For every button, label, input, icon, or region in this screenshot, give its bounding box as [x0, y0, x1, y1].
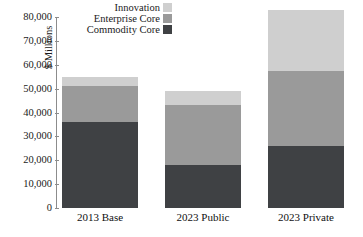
y-axis-tick-mark: [55, 184, 59, 185]
bar-segment[interactable]: [62, 86, 138, 122]
y-axis-tick-mark: [55, 160, 59, 161]
bar-segment[interactable]: [165, 91, 241, 105]
y-axis-tick-label: 80,000: [23, 10, 52, 23]
stacked-bar-chart: InnovationEnterprise CoreCommodity Core …: [0, 0, 363, 237]
y-axis-tick-label: 10,000: [23, 177, 52, 190]
bar-segment[interactable]: [62, 122, 138, 208]
y-axis-tick-mark: [55, 41, 59, 42]
bar-segment[interactable]: [165, 165, 241, 208]
bar-segment[interactable]: [268, 146, 344, 208]
y-axis-tick-label: 60,000: [23, 58, 52, 71]
x-axis-category-label: 2023 Public: [148, 211, 258, 223]
plot-area: 80,00070,00060,00050,00040,00030,00020,0…: [56, 17, 360, 208]
legend-item-label: Innovation: [115, 2, 161, 13]
y-axis-tick-label: 40,000: [23, 106, 52, 119]
bar-stack[interactable]: [165, 91, 241, 208]
x-axis-category-label: 2013 Base: [45, 211, 155, 223]
y-axis-tick-mark: [55, 208, 59, 209]
y-axis-tick-mark: [55, 89, 59, 90]
bar-segment[interactable]: [165, 105, 241, 165]
legend-item[interactable]: Innovation: [115, 2, 173, 13]
bar-segment[interactable]: [62, 77, 138, 87]
y-axis-tick-label: 50,000: [23, 82, 52, 95]
y-axis-tick-mark: [55, 65, 59, 66]
y-axis-tick-label: 70,000: [23, 34, 52, 47]
y-axis-tick-mark: [55, 113, 59, 114]
y-axis-tick-label: 20,000: [23, 153, 52, 166]
legend-swatch-icon: [163, 3, 172, 12]
y-axis-tick-label: 30,000: [23, 129, 52, 142]
x-axis-category-label: 2023 Private: [251, 211, 361, 223]
bar-stack[interactable]: [62, 77, 138, 208]
bar-stack[interactable]: [268, 10, 344, 208]
y-axis-tick-mark: [55, 136, 59, 137]
bar-segment[interactable]: [268, 71, 344, 146]
bar-segment[interactable]: [268, 10, 344, 71]
y-axis-tick-mark: [55, 17, 59, 18]
